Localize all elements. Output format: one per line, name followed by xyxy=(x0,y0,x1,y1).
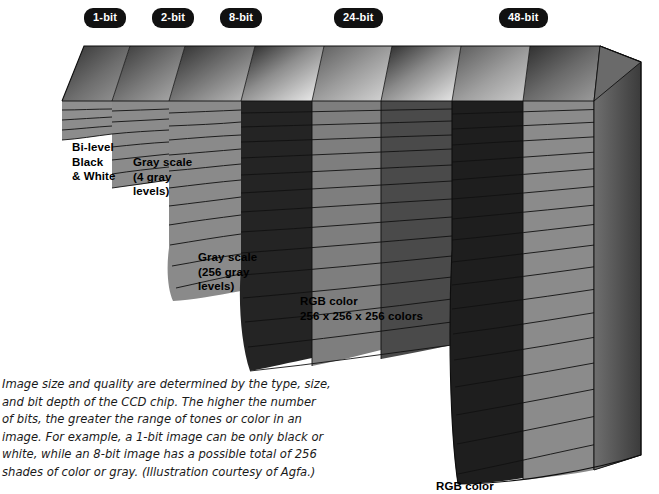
callout-2-bit: Gray scale (4 gray levels) xyxy=(133,155,192,199)
chip-right-endcap xyxy=(594,46,641,470)
callout-8-bit: Gray scale (256 gray levels) xyxy=(198,250,257,294)
tag-1-bit: 1-bit xyxy=(84,8,126,28)
stack-24-bit xyxy=(240,101,452,371)
stack-1-bit xyxy=(62,101,112,140)
tag-24-bit: 24-bit xyxy=(334,8,383,28)
caption-line: Image size and quality are determined by… xyxy=(2,376,322,394)
tag-48-bit: 48-bit xyxy=(499,8,548,28)
caption-line: shades of color or gray. (Illustration c… xyxy=(2,464,322,482)
caption-line: image. For example, a 1-bit image can be… xyxy=(2,429,322,447)
chip-top-surface xyxy=(62,46,600,101)
caption-line: white, while an 8-bit image has a possib… xyxy=(2,446,322,464)
tag-8-bit: 8-bit xyxy=(220,8,262,28)
caption-line: and bit depth of the CCD chip. The highe… xyxy=(2,394,322,412)
callout-1-bit: Bi-level Black & White xyxy=(72,140,116,184)
callout-24-bit: RGB color 256 x 256 x 256 colors xyxy=(300,294,423,323)
callout-48-bit: RGB color xyxy=(436,479,494,494)
caption-line: of bits, the greater the range of tones … xyxy=(2,411,322,429)
tag-2-bit: 2-bit xyxy=(152,8,194,28)
figure-caption: Image size and quality are determined by… xyxy=(2,376,322,482)
